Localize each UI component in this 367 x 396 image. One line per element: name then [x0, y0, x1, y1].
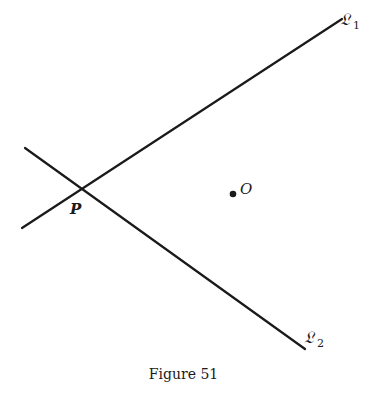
line-l1: [22, 19, 342, 228]
label-l1: 𝔏 1: [340, 9, 360, 32]
svg-text:𝔏: 𝔏: [304, 327, 316, 347]
point-o-dot: [230, 191, 237, 198]
svg-text:𝔏: 𝔏: [340, 9, 352, 29]
diagram-canvas: 𝔏 1 𝔏 2 P O: [0, 0, 367, 396]
svg-text:1: 1: [353, 19, 360, 32]
figure-caption: Figure 51: [0, 366, 367, 382]
label-l2: 𝔏 2: [304, 327, 324, 350]
svg-text:2: 2: [317, 337, 324, 350]
label-point-p: P: [69, 200, 82, 218]
line-l2: [25, 148, 305, 349]
label-point-o: O: [240, 180, 252, 198]
